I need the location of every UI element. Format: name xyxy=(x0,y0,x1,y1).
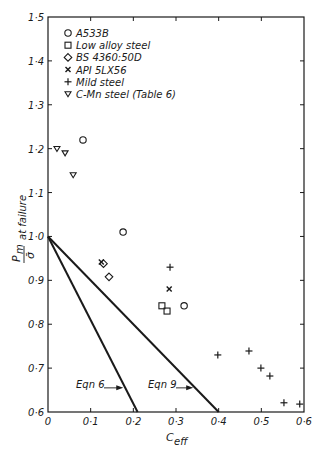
plus-marker xyxy=(214,351,221,358)
legend: A533BLow alloy steelBS 4360:50DAPI 5LX56… xyxy=(64,28,176,100)
diamond-marker xyxy=(64,54,72,62)
y-tick-label: 1·2 xyxy=(28,144,44,155)
plus-marker xyxy=(167,264,174,271)
x-marker xyxy=(66,67,71,72)
eqn9-label: Eqn 9 xyxy=(148,379,177,390)
svg-text:σ̄: σ̄ xyxy=(24,251,37,259)
x-axis-title: C eff xyxy=(166,431,189,447)
y-tick-label: 0·9 xyxy=(28,275,44,286)
equation-line xyxy=(48,236,219,412)
circle-marker xyxy=(80,137,86,143)
x-tick-label: 0·1 xyxy=(83,416,99,427)
x-marker xyxy=(99,259,104,264)
x-tick-label: 0 xyxy=(45,416,51,427)
triangle-down-marker xyxy=(62,151,68,156)
x-tick-label: 0·5 xyxy=(253,416,269,427)
y-tick-label: 0·7 xyxy=(28,363,45,374)
y-tick-label: 1·3 xyxy=(28,100,44,111)
arrow-head xyxy=(116,385,123,390)
triangle-down-marker xyxy=(70,173,76,178)
diamond-marker xyxy=(105,273,113,281)
plus-marker xyxy=(245,347,252,354)
svg-text:P: P xyxy=(10,255,23,262)
x-tick-label: 0·6 xyxy=(296,416,312,427)
eqn6-label: Eqn 6 xyxy=(76,379,105,390)
circle-marker xyxy=(65,30,71,36)
square-marker xyxy=(65,42,71,48)
y-tick-label: 0·8 xyxy=(28,319,44,330)
y-tick-label: 1·5 xyxy=(28,12,44,23)
svg-text:C: C xyxy=(166,431,174,444)
circle-marker xyxy=(181,303,187,309)
y-tick-label: 1·0 xyxy=(28,231,44,242)
equation-lines xyxy=(48,236,219,412)
y-tick-label: 1·4 xyxy=(28,56,44,67)
legend-item-label: API 5LX56 xyxy=(75,65,127,76)
x-marker xyxy=(167,287,172,292)
triangle-down-marker xyxy=(65,92,71,97)
y-axis-title: P m σ̄ at failure xyxy=(10,195,37,263)
legend-item-label: Mild steel xyxy=(76,77,124,88)
axis-ticks: 00·10·20·30·40·50·60·60·70·80·91·01·11·2… xyxy=(28,12,312,427)
triangle-down-marker xyxy=(54,146,60,151)
x-tick-label: 0·4 xyxy=(211,416,227,427)
legend-item-label: A533B xyxy=(75,28,109,39)
scatter-chart: 00·10·20·30·40·50·60·60·70·80·91·01·11·2… xyxy=(0,0,324,453)
data-points xyxy=(54,137,303,408)
plus-marker xyxy=(296,401,303,408)
legend-item-label: C-Mn steel (Table 6) xyxy=(76,89,176,100)
x-tick-label: 0·2 xyxy=(125,416,141,427)
plus-marker xyxy=(257,365,264,372)
legend-item-label: Low alloy steel xyxy=(76,40,150,51)
y-tick-label: 0·6 xyxy=(28,407,44,418)
plus-marker xyxy=(266,373,273,380)
circle-marker xyxy=(120,229,126,235)
legend-item-label: BS 4360:50D xyxy=(76,52,142,63)
plus-marker xyxy=(65,78,72,85)
svg-text:at failure: at failure xyxy=(17,195,28,240)
y-tick-label: 1·1 xyxy=(28,188,44,199)
svg-text:eff: eff xyxy=(174,436,189,447)
plus-marker xyxy=(280,399,287,406)
x-tick-label: 0·3 xyxy=(168,416,184,427)
